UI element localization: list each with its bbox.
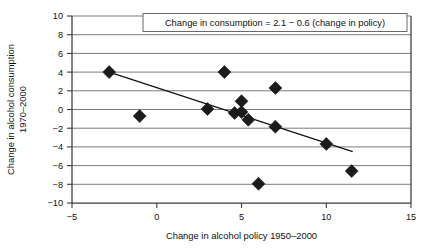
x-tick-label: 5 (239, 212, 244, 222)
y-tick-label: 8 (58, 30, 63, 40)
data-point-marker (269, 82, 282, 95)
scatter-plot-figure: 10 8 6 4 2 0 −2 −4 −6 −8 −10 −5 0 5 10 1… (0, 0, 422, 249)
y-tick-label: 0 (58, 105, 63, 115)
data-point-marker (320, 138, 333, 151)
y-tick-label: −10 (47, 198, 63, 208)
data-point-marker (103, 66, 116, 79)
x-tick-label: 0 (154, 212, 159, 222)
y-tick-label: −4 (53, 142, 63, 152)
data-point-marker (133, 110, 146, 123)
annotation-equation-text: Change in consumption = 2.1 − 0.6 (chang… (165, 18, 385, 28)
data-point-marker (269, 120, 282, 133)
chart-canvas: 10 8 6 4 2 0 −2 −4 −6 −8 −10 −5 0 5 10 1… (0, 0, 422, 249)
y-tick-label: −8 (53, 180, 63, 190)
data-point-marker (218, 66, 231, 79)
data-point-marker (201, 103, 214, 116)
y-tick-labels: 10 8 6 4 2 0 −2 −4 −6 −8 −10 (47, 11, 63, 208)
y-tick-label: −2 (53, 124, 63, 134)
y-tick-marks (67, 16, 72, 203)
data-point-marker (345, 165, 358, 178)
x-tick-label: −5 (67, 212, 77, 222)
x-axis-title: Change in alcohol policy 1950–2000 (166, 230, 317, 241)
x-tick-label: 15 (406, 212, 416, 222)
x-tick-marks (72, 203, 411, 208)
y-tick-label: 6 (58, 49, 63, 59)
y-tick-label: 4 (58, 68, 63, 78)
y-tick-label: 2 (58, 86, 63, 96)
y-tick-label: 10 (53, 11, 63, 21)
data-point-marker (252, 177, 265, 190)
equation-annotation: Change in consumption = 2.1 − 0.6 (chang… (143, 14, 407, 32)
x-tick-labels: −5 0 5 10 15 (67, 212, 416, 222)
y-axis-title-line2: 1970–2000 (17, 86, 28, 133)
x-tick-label: 10 (321, 212, 331, 222)
y-axis-title-line1: Change in alcohol consumption (5, 44, 16, 175)
y-tick-label: −6 (53, 161, 63, 171)
